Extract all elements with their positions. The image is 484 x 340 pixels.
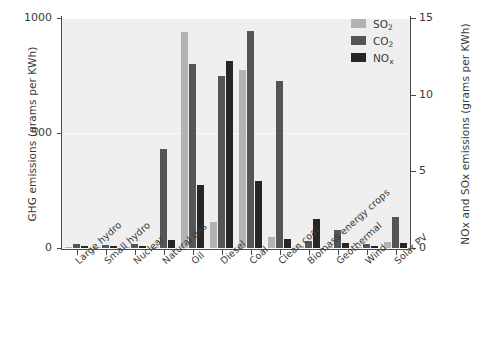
legend-item-so2: SO2 (351, 16, 394, 31)
y-axis-right-tick-mark (411, 171, 416, 172)
legend-swatch-co2 (351, 36, 366, 45)
chart-legend: SO2CO2NOx (351, 16, 394, 67)
y-axis-right-tick-label: 15 (419, 11, 463, 24)
y-axis-right-title: NOx and SOx emissions (grams per KWh) (459, 14, 471, 254)
bar-so2-large-hydro (65, 247, 73, 248)
bar-nox-coal (255, 181, 263, 248)
y-axis-left-tick-label: 500 (8, 126, 52, 139)
bar-co2-clean-coal (276, 81, 284, 248)
bar-so2-coal (239, 70, 247, 248)
legend-label-co2: CO2 (373, 35, 393, 47)
bar-co2-solar-pv (392, 217, 400, 248)
bar-so2-clean-coal (268, 237, 276, 249)
bar-co2-large-hydro (73, 244, 81, 248)
legend-item-nox: NOx (351, 50, 394, 65)
y-axis-right-tick-label: 0 (419, 241, 463, 254)
bar-nox-diesel (226, 61, 234, 248)
bar-so2-diesel (210, 222, 218, 248)
y-axis-right-tick-mark (411, 18, 416, 19)
bar-co2-coal (247, 31, 255, 248)
chart-figure: GHG emissions (grams per KWh) NOx and SO… (0, 0, 484, 340)
bar-co2-oil (189, 64, 197, 248)
bar-so2-oil (181, 32, 189, 248)
y-axis-right-tick-label: 5 (419, 164, 463, 177)
y-axis-left-tick-label: 0 (8, 241, 52, 254)
legend-swatch-so2 (351, 19, 366, 28)
legend-label-nox: NOx (373, 52, 394, 64)
y-axis-right-tick-mark (411, 95, 416, 96)
bar-co2-diesel (218, 76, 226, 249)
legend-swatch-nox (351, 53, 366, 62)
y-axis-right-spine (410, 16, 411, 250)
y-axis-left-tick-mark (57, 133, 62, 134)
y-axis-right-tick-label: 10 (419, 88, 463, 101)
y-axis-left-tick-mark (57, 248, 62, 249)
x-axis-label-oil: Oil (189, 249, 206, 266)
legend-label-so2: SO2 (373, 18, 393, 30)
bar-co2-natural-gas (160, 149, 168, 248)
gridline (62, 133, 410, 134)
y-axis-left-tick-mark (57, 18, 62, 19)
legend-item-co2: CO2 (351, 33, 394, 48)
y-axis-left-tick-label: 1000 (8, 11, 52, 24)
